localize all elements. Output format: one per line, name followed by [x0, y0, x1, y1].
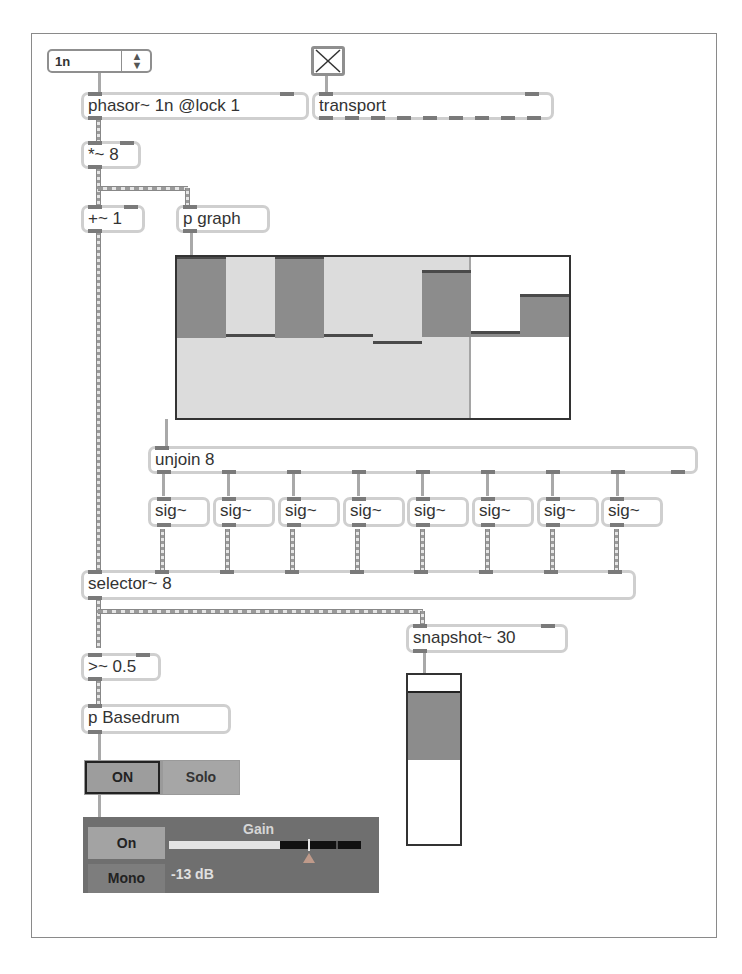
- inlet[interactable]: [350, 570, 364, 574]
- patch-cord[interactable]: [325, 76, 328, 93]
- inlet[interactable]: [544, 570, 558, 574]
- outlet[interactable]: [546, 523, 560, 527]
- slider-bar[interactable]: [275, 257, 324, 338]
- outlet[interactable]: [222, 470, 236, 474]
- inlet[interactable]: [610, 497, 624, 501]
- on-button[interactable]: ON: [85, 761, 160, 794]
- snapshot-value-slider[interactable]: [406, 673, 462, 846]
- signal-cord[interactable]: [420, 529, 425, 571]
- outlet[interactable]: [352, 523, 366, 527]
- outlets[interactable]: [319, 116, 547, 120]
- inlet[interactable]: [136, 653, 150, 657]
- outlet[interactable]: [157, 470, 171, 474]
- inlet[interactable]: [124, 205, 138, 209]
- add-object[interactable]: +~ 1: [81, 205, 145, 233]
- patch-cord[interactable]: [292, 472, 295, 496]
- patch-cord[interactable]: [165, 419, 168, 447]
- sig-object-7[interactable]: sig~: [537, 497, 599, 527]
- inlet[interactable]: [541, 624, 555, 628]
- gain-slider[interactable]: [169, 841, 361, 849]
- patch-cord[interactable]: [551, 472, 554, 496]
- inlet[interactable]: [416, 497, 430, 501]
- patch-cord[interactable]: [616, 472, 619, 496]
- transport-toggle[interactable]: [311, 46, 345, 76]
- slider-bar[interactable]: [422, 271, 471, 338]
- inlet[interactable]: [287, 497, 301, 501]
- inlet[interactable]: [88, 653, 102, 657]
- outlet[interactable]: [88, 596, 102, 600]
- sig-object-6[interactable]: sig~: [472, 497, 534, 527]
- note-value-menu[interactable]: 1n ▲▼: [47, 49, 152, 73]
- inlet[interactable]: [88, 141, 102, 145]
- up-down-arrows-icon[interactable]: ▲▼: [127, 52, 147, 70]
- inlet[interactable]: [414, 570, 428, 574]
- inlet[interactable]: [546, 497, 560, 501]
- inlet[interactable]: [88, 205, 102, 209]
- transport-object[interactable]: transport: [312, 92, 554, 120]
- outlet[interactable]: [222, 523, 236, 527]
- inlet[interactable]: [157, 497, 171, 501]
- patch-cord[interactable]: [423, 651, 426, 673]
- inlet[interactable]: [88, 92, 102, 96]
- inlet[interactable]: [479, 570, 493, 574]
- slider-bar[interactable]: [520, 295, 569, 338]
- patch-cord[interactable]: [486, 472, 489, 496]
- signal-cord[interactable]: [185, 188, 190, 206]
- inlet[interactable]: [183, 205, 197, 209]
- outlet[interactable]: [287, 470, 301, 474]
- signal-cord[interactable]: [550, 529, 555, 571]
- patch-cord[interactable]: [98, 795, 101, 817]
- outlet[interactable]: [546, 470, 560, 474]
- gain-on-button[interactable]: On: [88, 827, 165, 859]
- inlet[interactable]: [88, 570, 102, 574]
- outlet[interactable]: [352, 470, 366, 474]
- outlet[interactable]: [88, 229, 102, 233]
- solo-button[interactable]: Solo: [163, 761, 239, 794]
- inlet[interactable]: [319, 92, 333, 96]
- inlet[interactable]: [285, 570, 299, 574]
- patch-cord[interactable]: [98, 73, 101, 93]
- outlet[interactable]: [416, 523, 430, 527]
- outlet[interactable]: [88, 677, 102, 681]
- sig-object-2[interactable]: sig~: [213, 497, 275, 527]
- patch-cord[interactable]: [227, 472, 230, 496]
- inlet[interactable]: [88, 704, 102, 708]
- inlet[interactable]: [525, 92, 539, 96]
- outlet[interactable]: [481, 470, 495, 474]
- inlet[interactable]: [220, 570, 234, 574]
- signal-cord[interactable]: [96, 598, 101, 648]
- patch-cord[interactable]: [421, 472, 424, 496]
- sig-object-3[interactable]: sig~: [278, 497, 340, 527]
- inlet[interactable]: [280, 92, 294, 96]
- outlet[interactable]: [413, 649, 427, 653]
- patch-cord[interactable]: [98, 730, 101, 760]
- outlet[interactable]: [183, 229, 197, 233]
- selector-object[interactable]: selector~ 8: [81, 570, 636, 600]
- sig-object-4[interactable]: sig~: [343, 497, 405, 527]
- p-graph-object[interactable]: p graph: [176, 205, 270, 233]
- multiply-object[interactable]: *~ 8: [81, 141, 141, 169]
- sig-object-1[interactable]: sig~: [148, 497, 210, 527]
- inlet[interactable]: [413, 624, 427, 628]
- inlet[interactable]: [481, 497, 495, 501]
- outlet[interactable]: [88, 116, 102, 120]
- outlet[interactable]: [157, 523, 171, 527]
- outlet[interactable]: [88, 730, 102, 734]
- snapshot-object[interactable]: snapshot~ 30: [406, 624, 568, 653]
- inlet[interactable]: [222, 497, 236, 501]
- signal-cord[interactable]: [485, 529, 490, 571]
- mono-button[interactable]: Mono: [88, 864, 165, 893]
- signal-cord[interactable]: [355, 529, 360, 571]
- slider-bar[interactable]: [177, 257, 226, 338]
- outlet[interactable]: [671, 470, 685, 474]
- phasor-object[interactable]: phasor~ 1n @lock 1: [81, 92, 309, 120]
- inlet[interactable]: [352, 497, 366, 501]
- signal-cord[interactable]: [290, 529, 295, 571]
- inlet[interactable]: [120, 141, 134, 145]
- outlet[interactable]: [88, 165, 102, 169]
- greater-equal-object[interactable]: >~ 0.5: [81, 653, 161, 681]
- patch-cord[interactable]: [190, 232, 193, 256]
- inlet[interactable]: [155, 446, 169, 450]
- signal-cord[interactable]: [96, 232, 101, 572]
- gain-slider-handle[interactable]: [308, 839, 310, 851]
